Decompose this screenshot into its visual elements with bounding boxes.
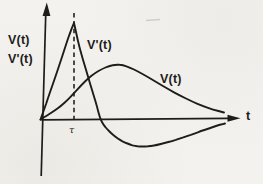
y-axis-label-vprime: V'(t) xyxy=(8,50,33,69)
y-axis-labels: V(t) V'(t) xyxy=(8,31,33,68)
vprime-curve-label: V'(t) xyxy=(87,39,112,52)
v-curve xyxy=(41,65,225,120)
x-axis xyxy=(41,115,240,122)
y-axis-label-v: V(t) xyxy=(8,31,33,50)
y-axis xyxy=(41,3,50,177)
right-arrowhead-icon xyxy=(228,115,241,122)
tau-tick-label: τ xyxy=(69,124,74,135)
x-axis-label: t xyxy=(246,110,250,123)
scan-smudge xyxy=(146,20,160,21)
up-arrowhead-icon xyxy=(43,3,51,17)
v-curve-label: V(t) xyxy=(160,73,182,86)
graph-svg xyxy=(0,0,263,184)
graph-figure: V(t) V'(t) V'(t) V(t) t τ xyxy=(0,0,263,184)
